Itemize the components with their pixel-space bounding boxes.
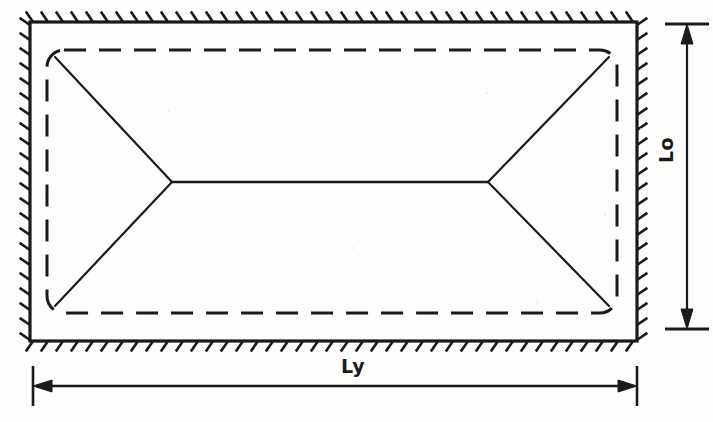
yield-line-top-left xyxy=(55,57,172,182)
figure-root: Ly Lo xyxy=(0,0,713,422)
ly-arrowhead-left xyxy=(33,380,52,392)
yield-line-top-right xyxy=(488,57,609,182)
lo-dimension-line xyxy=(665,24,709,329)
lo-arrowhead-top xyxy=(681,24,693,44)
yield-line-bottom-right xyxy=(488,182,609,306)
lo-arrowhead-bottom xyxy=(681,309,693,329)
yield-line-bottom-left xyxy=(55,182,172,306)
ly-arrowhead-right xyxy=(618,380,637,392)
ly-dimension-line xyxy=(33,366,637,406)
positive-yield-lines xyxy=(55,57,609,306)
ly-dimension-label: Ly xyxy=(341,355,365,377)
lo-dimension-label: Lo xyxy=(655,137,677,163)
